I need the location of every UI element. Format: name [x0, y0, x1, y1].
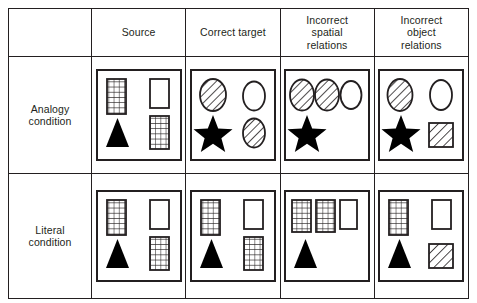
stimulus-drawing-literal-correct-target	[192, 192, 274, 280]
grid-rectangle-tall-top-left	[389, 200, 408, 235]
cell-literal-source	[92, 174, 186, 299]
solid-triangle-bottom-left	[388, 239, 411, 268]
stimulus-panel-analogy-correct-target	[190, 69, 276, 161]
stimulus-panel-analogy-source	[96, 69, 182, 161]
outline-rectangle-tall-top-3	[340, 200, 357, 229]
hatched-ellipse-top-left	[388, 79, 413, 111]
outline-ellipse-top-right	[430, 80, 452, 110]
stimulus-drawing-analogy-source	[98, 71, 180, 159]
column-header-incorrect-spatial-relations-line-2: spatial	[281, 26, 374, 39]
hatched-square-bottom-right	[429, 123, 453, 147]
grid-rectangle-tall-top-left	[107, 200, 126, 235]
cell-literal-correct-target	[186, 174, 280, 299]
column-header-source: Source	[92, 9, 186, 57]
solid-triangle-bottom-left	[106, 118, 129, 147]
outline-rectangle-tall-top-right	[150, 200, 169, 229]
column-header-incorrect-spatial-relations: Incorrect spatial relations	[280, 9, 374, 57]
cell-analogy-incorrect-object-relations	[374, 57, 468, 174]
grid-rectangle-tall-top-1	[292, 200, 311, 232]
stimulus-panel-analogy-incorrect-object-relations	[378, 69, 464, 161]
matrix-header-row: Source Correct target Incorrect spatial …	[9, 9, 469, 57]
solid-star-bottom-left	[193, 115, 232, 152]
matrix-row-literal: Literal condition	[9, 174, 469, 299]
row-header-literal-line-1: Literal	[9, 224, 91, 237]
hatched-ellipse-top-left	[200, 79, 226, 111]
cell-literal-incorrect-object-relations	[374, 174, 468, 299]
column-header-correct-target: Correct target	[186, 9, 280, 57]
outline-ellipse-top-3	[341, 81, 362, 109]
row-header-literal-condition: Literal condition	[9, 174, 92, 299]
figure-container: Source Correct target Incorrect spatial …	[0, 0, 477, 303]
row-header-analogy-line-2: condition	[9, 115, 91, 128]
column-header-source-line-1: Source	[92, 26, 185, 39]
stimulus-drawing-literal-source	[98, 192, 180, 280]
solid-star-bottom-left	[382, 115, 421, 152]
condition-matrix: Source Correct target Incorrect spatial …	[8, 8, 469, 299]
stimulus-panel-literal-incorrect-spatial-relations	[284, 190, 370, 282]
grid-rectangle-tall-top-2	[316, 200, 335, 232]
corner-blank-cell	[9, 9, 92, 57]
stimulus-drawing-analogy-incorrect-object-relations	[380, 71, 462, 159]
cell-analogy-correct-target	[186, 57, 280, 174]
cell-literal-incorrect-spatial-relations	[280, 174, 374, 299]
column-header-incorrect-object-relations-line-2: object	[375, 26, 468, 39]
column-header-incorrect-object-relations: Incorrect object relations	[374, 9, 468, 57]
solid-triangle-bottom-left	[294, 239, 317, 268]
stimulus-drawing-analogy-incorrect-spatial-relations	[286, 71, 368, 159]
outline-rectangle-tall-top-right	[150, 79, 169, 108]
matrix-row-analogy: Analogy condition	[9, 57, 469, 174]
stimulus-panel-literal-source	[96, 190, 182, 282]
grid-rectangle-tall-bottom-right	[244, 237, 263, 270]
hatched-ellipse-top-1	[290, 80, 314, 111]
stimulus-panel-analogy-incorrect-spatial-relations	[284, 69, 370, 161]
stimulus-drawing-literal-incorrect-spatial-relations	[286, 192, 368, 280]
outline-rectangle-tall-top-right	[432, 200, 451, 229]
stimulus-drawing-analogy-correct-target	[192, 71, 274, 159]
stimulus-drawing-literal-incorrect-object-relations	[380, 192, 462, 280]
hatched-square-bottom-right	[429, 244, 453, 268]
column-header-incorrect-spatial-relations-line-3: relations	[281, 39, 374, 52]
solid-triangle-bottom-left	[200, 239, 223, 268]
solid-star-bottom-left	[288, 115, 327, 152]
grid-rectangle-tall-bottom-right	[150, 116, 169, 149]
outline-ellipse-top-right	[243, 82, 265, 111]
column-header-correct-target-line-1: Correct target	[186, 26, 279, 39]
cell-analogy-source	[92, 57, 186, 174]
grid-rectangle-tall-top-left	[107, 79, 126, 114]
hatched-ellipse-bottom-right	[243, 119, 265, 148]
grid-rectangle-tall-top-left	[201, 200, 220, 235]
row-header-literal-line-2: condition	[9, 236, 91, 249]
cell-analogy-incorrect-spatial-relations	[280, 57, 374, 174]
stimulus-panel-literal-incorrect-object-relations	[378, 190, 464, 282]
column-header-incorrect-spatial-relations-line-1: Incorrect	[281, 14, 374, 27]
row-header-analogy-line-1: Analogy	[9, 103, 91, 116]
outline-rectangle-tall-top-right	[244, 200, 263, 229]
stimulus-panel-literal-correct-target	[190, 190, 276, 282]
solid-triangle-bottom-left	[106, 239, 129, 268]
grid-rectangle-tall-bottom-right	[150, 237, 169, 270]
row-header-analogy-condition: Analogy condition	[9, 57, 92, 174]
column-header-incorrect-object-relations-line-1: Incorrect	[375, 14, 468, 27]
column-header-incorrect-object-relations-line-3: relations	[375, 39, 468, 52]
hatched-ellipse-top-2	[315, 80, 339, 111]
